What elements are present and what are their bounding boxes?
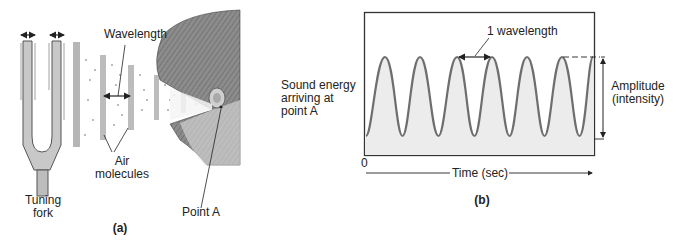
panel-b-caption: (b) — [462, 194, 502, 207]
one-wavelength-label: 1 wavelength — [487, 25, 558, 38]
air-molecules-label-line2: molecules — [92, 168, 152, 181]
time-axis-label: Time (sec) — [450, 167, 510, 180]
tuning-fork-icon — [21, 35, 64, 196]
point-a-label: Point A — [182, 206, 220, 219]
amplitude-label-line2: (intensity) — [608, 93, 668, 106]
origin-label: 0 — [361, 157, 368, 170]
y-description-line3: point A — [281, 105, 318, 118]
wavelength-label: Wavelength — [104, 28, 167, 41]
head-illustration — [157, 10, 240, 165]
tuning-fork-label-line2: fork — [18, 207, 68, 220]
panel-a-caption: (a) — [100, 222, 140, 235]
figure-canvas — [0, 0, 685, 241]
